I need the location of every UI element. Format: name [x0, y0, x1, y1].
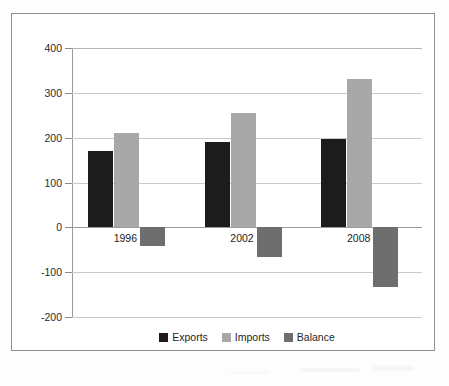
legend-item-balance[interactable]: Balance — [284, 331, 335, 343]
gridline--200 — [72, 317, 422, 318]
y-axis-label: -100 — [41, 267, 62, 278]
legend-label: Imports — [235, 331, 270, 343]
bar-imports-2008[interactable] — [347, 79, 372, 227]
y-tick-400 — [65, 48, 72, 49]
gridline-0 — [72, 227, 422, 228]
y-tick-300 — [65, 93, 72, 94]
bar-balance-2008[interactable] — [373, 227, 398, 287]
scan-artifact — [300, 368, 360, 372]
category-label-2008: 2008 — [347, 233, 370, 244]
scan-artifact — [230, 371, 270, 374]
category-label-1996: 1996 — [114, 233, 137, 244]
y-axis-label: 100 — [44, 177, 62, 188]
bar-imports-2002[interactable] — [231, 113, 256, 228]
y-tick--200 — [65, 317, 72, 318]
category-label-2002: 2002 — [230, 233, 253, 244]
bar-exports-1996[interactable] — [88, 151, 113, 227]
chart-page: 4003002001000-100-200 199620022008 Expor… — [0, 0, 449, 386]
legend-swatch-imports-icon — [222, 333, 231, 342]
legend-swatch-exports-icon — [159, 333, 168, 342]
legend-item-imports[interactable]: Imports — [222, 331, 270, 343]
y-axis-label: -200 — [41, 312, 62, 323]
bar-exports-2008[interactable] — [321, 139, 346, 227]
y-tick-0 — [65, 227, 72, 228]
y-tick-200 — [65, 138, 72, 139]
y-axis-label: 400 — [44, 43, 62, 54]
bar-exports-2002[interactable] — [205, 142, 230, 227]
bar-imports-1996[interactable] — [114, 133, 139, 228]
y-axis-label: 0 — [56, 222, 62, 233]
legend-swatch-balance-icon — [284, 333, 293, 342]
legend-label: Exports — [172, 331, 208, 343]
legend-label: Balance — [297, 331, 335, 343]
legend-item-exports[interactable]: Exports — [159, 331, 208, 343]
chart-frame: 4003002001000-100-200 199620022008 Expor… — [11, 13, 435, 351]
y-axis-label: 200 — [44, 132, 62, 143]
chart-legend: ExportsImportsBalance — [72, 331, 422, 343]
y-tick--100 — [65, 272, 72, 273]
bar-balance-1996[interactable] — [140, 227, 165, 246]
y-axis-label: 300 — [44, 88, 62, 99]
gridline--100 — [72, 272, 422, 273]
plot-area: 4003002001000-100-200 199620022008 Expor… — [72, 48, 422, 317]
y-tick-100 — [65, 183, 72, 184]
gridline-400 — [72, 48, 422, 49]
scan-artifact — [372, 366, 414, 371]
bar-balance-2002[interactable] — [257, 227, 282, 257]
